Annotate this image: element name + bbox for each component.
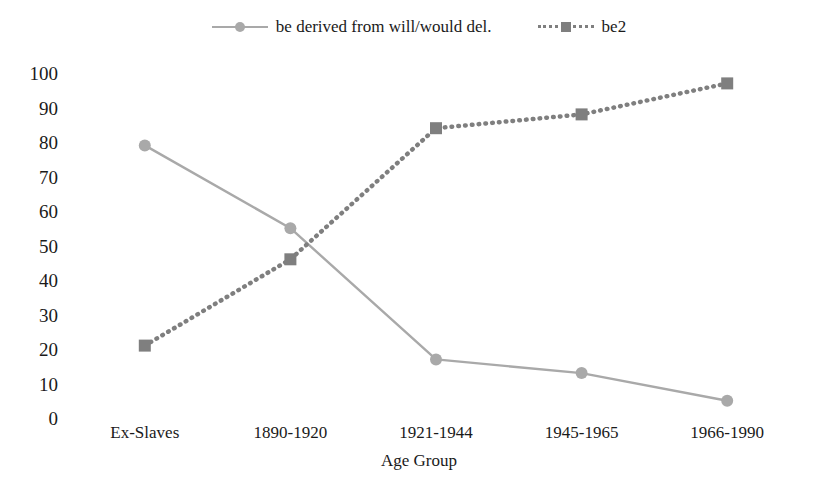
x-axis-tick-1890-1920: 1890-1920	[254, 424, 328, 441]
x-axis-title: Age Group	[0, 452, 838, 469]
caption-strip	[0, 484, 838, 498]
x-axis-tick-1945-1965: 1945-1965	[545, 424, 619, 441]
plot-area: 0102030405060708090100 Ex-Slaves1890-192…	[0, 0, 838, 498]
x-axis-tick-1921-1944: 1921-1944	[399, 424, 473, 441]
x-axis-tick-labels: Ex-Slaves1890-19201921-19441945-19651966…	[0, 0, 838, 498]
chart-container: be derived from will/would del. be2 0102…	[0, 0, 838, 498]
x-axis-tick-ex-slaves: Ex-Slaves	[110, 424, 179, 441]
x-axis-tick-1966-1990: 1966-1990	[690, 424, 764, 441]
